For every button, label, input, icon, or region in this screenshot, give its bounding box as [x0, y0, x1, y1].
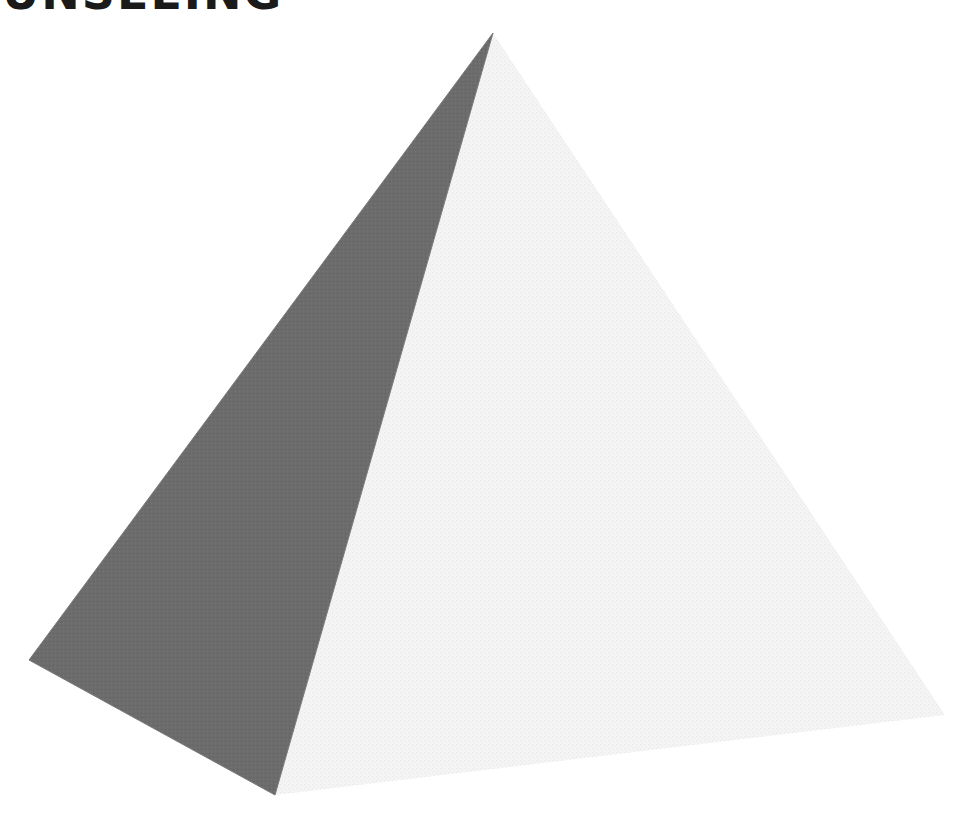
pyramid-illustration — [0, 0, 971, 814]
